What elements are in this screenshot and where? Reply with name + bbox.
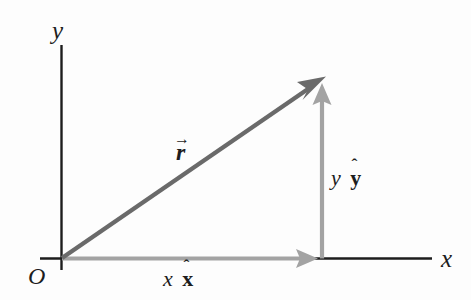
axes-group	[40, 45, 432, 270]
y-component-label: y ˆ y	[331, 167, 361, 189]
vector-arrow-accent: →	[174, 131, 190, 147]
resultant-vector-arrow	[62, 77, 326, 259]
diagram-canvas	[0, 0, 471, 300]
y-unit-vector-symbol: ˆ y	[346, 167, 361, 189]
resultant-vector-symbol: → r	[176, 140, 185, 164]
y-component-scalar: y	[331, 165, 341, 190]
origin-label: O	[28, 264, 45, 288]
vector-diagram-figure: y x O → r x ˆ x y ˆ y	[0, 0, 471, 300]
x-unit-vector-symbol: ˆ x	[178, 268, 193, 290]
resultant-vector-shaft	[62, 89, 308, 258]
y-hat-accent: ˆ	[352, 156, 358, 174]
x-component-label: x ˆ x	[163, 268, 193, 290]
y-axis-label: y	[52, 18, 63, 43]
x-component-scalar: x	[163, 266, 173, 291]
resultant-vector-label: → r	[176, 140, 185, 164]
x-hat-accent: ˆ	[184, 257, 190, 275]
x-axis-label: x	[441, 246, 452, 271]
y-component-arrow	[313, 83, 332, 259]
